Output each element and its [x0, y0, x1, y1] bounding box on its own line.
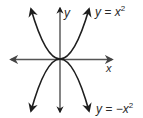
upper-equation-label: y = x2 — [94, 4, 126, 19]
lower-equation-exponent: 2 — [129, 101, 134, 110]
upper-equation-exponent: 2 — [121, 4, 126, 13]
lower-equation-text: y = −x — [95, 102, 130, 116]
parabola-diagram: y x y = x2 y = −x2 — [0, 0, 143, 118]
upper-equation-text: y = x — [94, 5, 122, 19]
lower-equation-label: y = −x2 — [95, 101, 134, 116]
x-axis-label: x — [105, 62, 112, 74]
y-axis-label: y — [63, 6, 71, 20]
